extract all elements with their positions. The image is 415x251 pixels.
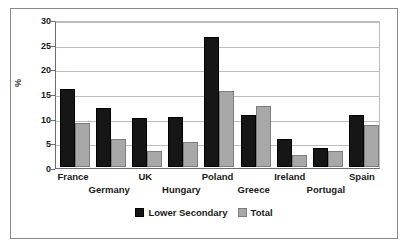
bar: [132, 118, 147, 167]
chart-frame: % 051015202530 FranceGermanyUKHungaryPol…: [10, 8, 398, 239]
legend-swatch: [238, 208, 247, 217]
y-axis-tick-label: 15: [15, 91, 51, 100]
bar: [364, 125, 379, 167]
legend-entry: Total: [238, 207, 273, 218]
y-axis-tick-label: 10: [15, 116, 51, 125]
y-axis-tick-label: 0: [15, 165, 51, 174]
x-axis-category-label: Spain: [349, 171, 375, 182]
bar: [96, 108, 111, 167]
legend-label: Lower Secondary: [148, 207, 227, 218]
bar: [328, 151, 343, 167]
bar: [147, 151, 162, 167]
bar: [183, 142, 198, 167]
x-axis-category-label: Portugal: [307, 184, 346, 195]
bar: [219, 91, 234, 167]
bar-group: [57, 22, 93, 167]
plot-area: [55, 21, 380, 169]
x-axis-category-label: Poland: [202, 171, 234, 182]
legend-entry: Lower Secondary: [135, 207, 227, 218]
legend-label: Total: [251, 207, 273, 218]
bar: [60, 89, 75, 167]
bar: [277, 139, 292, 167]
x-axis-category-label: France: [57, 171, 88, 182]
chart-legend: Lower SecondaryTotal: [11, 207, 397, 218]
bar-group: [274, 22, 310, 167]
bar: [204, 37, 219, 167]
plot-area-wrapper: [55, 21, 380, 169]
y-axis-tick-mark: [51, 169, 55, 170]
y-axis-tick-label: 20: [15, 66, 51, 75]
bar-group: [165, 22, 201, 167]
x-axis-category-label: Hungary: [162, 184, 201, 195]
bar-group: [129, 22, 165, 167]
bar: [111, 139, 126, 167]
y-axis-tick-label: 5: [15, 140, 51, 149]
bar-group: [201, 22, 237, 167]
bar-group: [346, 22, 382, 167]
bar: [349, 115, 364, 167]
x-axis-category-label: Germany: [89, 184, 130, 195]
y-axis-tick-labels: 051015202530: [11, 21, 51, 169]
bar-group: [238, 22, 274, 167]
y-axis-tick-label: 25: [15, 42, 51, 51]
bar: [313, 148, 328, 167]
x-axis-category-label: Ireland: [274, 171, 305, 182]
bar: [75, 123, 90, 167]
bar-group: [310, 22, 346, 167]
x-axis-category-labels: FranceGermanyUKHungaryPolandGreeceIrelan…: [55, 171, 380, 203]
bar: [168, 117, 183, 167]
bars-layer: [57, 22, 378, 167]
legend-swatch: [135, 208, 144, 217]
bar: [292, 155, 307, 167]
bar: [241, 115, 256, 167]
bar-group: [93, 22, 129, 167]
x-axis-category-label: UK: [138, 171, 152, 182]
bar: [256, 106, 271, 167]
y-axis-tick-label: 30: [15, 17, 51, 26]
x-axis-category-label: Greece: [237, 184, 269, 195]
